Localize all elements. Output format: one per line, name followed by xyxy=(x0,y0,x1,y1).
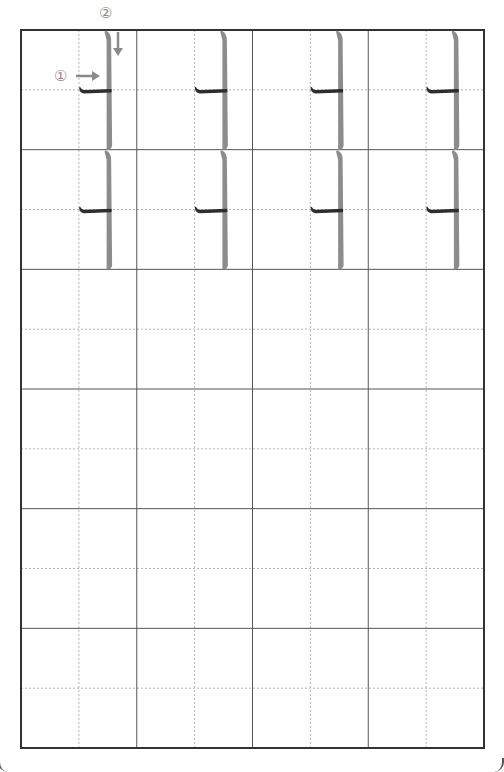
right-arrow-icon-head xyxy=(92,71,100,81)
horizontal-stroke xyxy=(80,208,111,213)
stroke-order-number-1: ① xyxy=(54,69,67,84)
page-corner-bottom-left xyxy=(0,758,14,772)
horizontal-stroke xyxy=(427,208,458,213)
horizontal-stroke xyxy=(196,208,227,213)
horizontal-stroke xyxy=(196,88,227,93)
down-arrow-icon-head xyxy=(113,48,123,56)
page-corner-bottom-right xyxy=(488,758,504,772)
horizontal-stroke xyxy=(311,88,342,93)
horizontal-stroke xyxy=(80,88,111,93)
stroke-order-number-2: ② xyxy=(99,6,112,21)
horizontal-stroke xyxy=(311,208,342,213)
horizontal-stroke xyxy=(427,88,458,93)
